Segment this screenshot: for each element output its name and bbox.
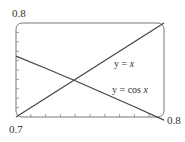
- chart: 0.8 0.7 0.8 y = x y = cos x: [0, 0, 185, 142]
- x-min-label: 0.7: [9, 123, 23, 135]
- annotation-y-equals-x: y = x: [114, 58, 135, 69]
- y-max-label: 0.8: [12, 7, 26, 19]
- series-line-0: [16, 23, 164, 117]
- x-max-label: 0.8: [167, 114, 181, 126]
- plot-lines: [16, 23, 164, 120]
- annotation-y-equals-cos-x: y = cos x: [112, 84, 148, 95]
